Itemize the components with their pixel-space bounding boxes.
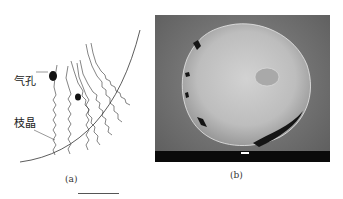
sem-databar	[155, 151, 330, 162]
caption-a: (a)	[65, 174, 77, 184]
dendrite-label: 枝晶	[14, 114, 36, 130]
caption-b: (b)	[230, 170, 243, 180]
dendrite-schematic	[0, 0, 150, 199]
panel-b-sem: (b)	[150, 0, 343, 199]
sem-micrograph	[155, 15, 330, 162]
pore-2	[75, 94, 81, 101]
particle	[182, 24, 310, 146]
pore-1	[49, 71, 57, 81]
panel-a-schematic: 气孔 枝晶 (a)	[0, 0, 150, 199]
pore-label: 气孔	[14, 72, 36, 88]
divider-rule	[78, 193, 119, 194]
scale-bar	[241, 152, 249, 154]
